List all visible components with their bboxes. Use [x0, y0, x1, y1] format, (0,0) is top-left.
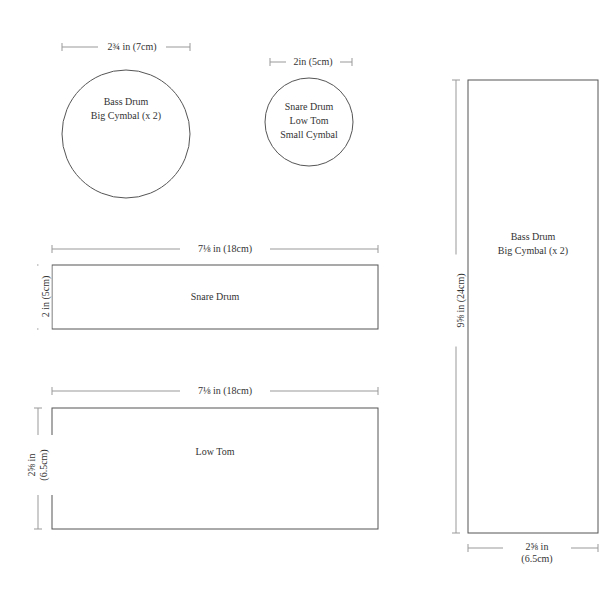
small-circle-line-2: Low Tom — [264, 114, 354, 128]
low-tom-rect-content: Low Tom — [52, 445, 378, 459]
small-circle-line-1: Snare Drum — [264, 100, 354, 114]
bass-rect-line-2: Big Cymbal (x 2) — [468, 244, 598, 258]
small-circle-content: Snare Drum Low Tom Small Cymbal — [264, 100, 354, 142]
bass-rect-line-1: Bass Drum — [468, 230, 598, 244]
large-circle-line-2: Big Cymbal (x 2) — [66, 109, 186, 123]
low-tom-height-line-2: (6.5cm) — [38, 435, 50, 495]
low-tom-rect-line-1: Low Tom — [52, 445, 378, 459]
bass-rect-height-label: 9⅝ in (24cm) — [454, 255, 467, 347]
bass-width-line-2: (6.5cm) — [507, 553, 567, 565]
snare-rect-width-label: 7⅛ in (18cm) — [180, 242, 270, 255]
large-circle-width-label: 2¾ in (7cm) — [98, 40, 166, 53]
snare-rect-height-label: 2 in (5cm) — [39, 258, 52, 336]
bass-rect-width-label: 2⅝ in (6.5cm) — [503, 541, 571, 565]
large-circle-line-1: Bass Drum — [66, 95, 186, 109]
low-tom-rect-outline — [52, 408, 378, 529]
bass-rect-content: Bass Drum Big Cymbal (x 2) — [468, 230, 598, 258]
small-circle-width-label: 2in (5cm) — [286, 55, 340, 68]
low-tom-rect-width-label: 7⅛ in (18cm) — [180, 384, 270, 397]
large-circle-content: Bass Drum Big Cymbal (x 2) — [66, 95, 186, 123]
bass-rect-outline — [468, 80, 598, 533]
low-tom-rect-height-label: 2⅝ in (6.5cm) — [22, 435, 54, 495]
snare-rect-content: Snare Drum — [52, 290, 378, 304]
bass-width-line-1: 2⅝ in — [507, 541, 567, 553]
snare-rect-line-1: Snare Drum — [52, 290, 378, 304]
low-tom-height-line-1: 2⅝ in — [26, 435, 38, 495]
small-circle-line-3: Small Cymbal — [264, 128, 354, 142]
large-circle-outline — [62, 70, 190, 198]
